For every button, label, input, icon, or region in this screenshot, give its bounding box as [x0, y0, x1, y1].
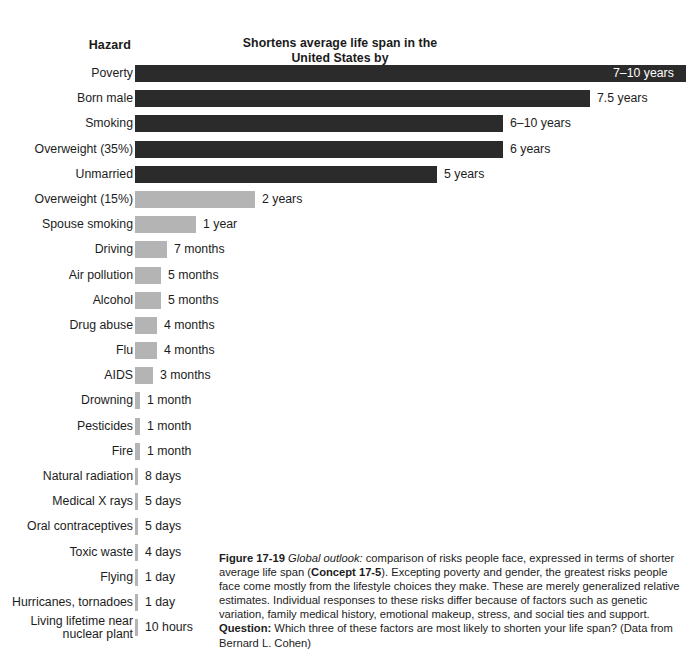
bar-row-label: Unmarried: [0, 168, 133, 181]
bar-container: [135, 292, 161, 309]
bar-container: [135, 65, 686, 82]
caption-italic-lead: Global outlook:: [288, 552, 363, 564]
bar-value-label: 7.5 years: [597, 91, 648, 105]
bar-row-label: Fire: [0, 445, 133, 458]
bar-container: [135, 241, 167, 258]
bar-container: [135, 216, 196, 233]
bar-row: Oral contraceptives5 days: [0, 515, 694, 540]
bar-container: [135, 594, 138, 611]
bar-value-label: 1 day: [145, 595, 175, 609]
bar: [135, 317, 157, 334]
bar-row: Drowning1 month: [0, 389, 694, 414]
bar-row-label: Living lifetime near nuclear plant: [0, 615, 133, 641]
bar-container: [135, 166, 437, 183]
bar-row: Spouse smoking1 year: [0, 213, 694, 238]
bar-value-label: 3 months: [160, 368, 211, 382]
bar-value-label: 7 months: [174, 242, 225, 256]
bar: [135, 141, 503, 158]
bar-row-label: Toxic waste: [0, 546, 133, 559]
bar: [135, 367, 153, 384]
bar-container: [135, 317, 157, 334]
bar-row-label: Hurricanes, tornadoes: [0, 596, 133, 609]
bar-container: [135, 619, 138, 636]
bar-container: [135, 418, 140, 435]
bar-row: Flu4 months: [0, 339, 694, 364]
bar-row-label: Flying: [0, 571, 133, 584]
bar-container: [135, 342, 157, 359]
bar-row-label: Medical X rays: [0, 495, 133, 508]
caption-bold-concept: Concept 17-5: [311, 566, 381, 578]
bar-row-label: Drowning: [0, 394, 133, 407]
bar-container: [135, 443, 140, 460]
bar-row-label: Drug abuse: [0, 319, 133, 332]
bar-row-label: Poverty: [0, 67, 133, 80]
bar-row-label: Overweight (15%): [0, 193, 133, 206]
bar-container: [135, 493, 138, 510]
bar-value-label: 1 year: [203, 217, 237, 231]
bar-row-label: Smoking: [0, 117, 133, 130]
hazard-column-header: Hazard: [0, 38, 131, 52]
bar: [135, 392, 140, 409]
bar: [135, 443, 140, 460]
bar: [135, 594, 138, 611]
bar-value-label: 5 months: [168, 268, 219, 282]
bar: [135, 518, 138, 535]
bar: [135, 418, 140, 435]
bar-value-label: 5 days: [145, 519, 181, 533]
bar: [135, 619, 138, 636]
bar: [135, 65, 686, 82]
bar-row: Pesticides1 month: [0, 415, 694, 440]
bar: [135, 468, 138, 485]
bar-value-label: 7–10 years: [613, 66, 674, 80]
bar-row: Fire1 month: [0, 440, 694, 465]
bar-row-label: Driving: [0, 243, 133, 256]
bar-row: Overweight (15%)2 years: [0, 188, 694, 213]
bar-value-label: 4 months: [164, 343, 215, 357]
bar-row-label: Born male: [0, 92, 133, 105]
bar-row: Smoking6–10 years: [0, 112, 694, 137]
bar: [135, 191, 255, 208]
bar-row-label: Oral contraceptives: [0, 520, 133, 533]
bar-value-label: 8 days: [145, 469, 181, 483]
bar-value-label: 6 years: [510, 142, 550, 156]
bar-row: Poverty7–10 years: [0, 62, 694, 87]
caption-text-3: Which three of these factors are most li…: [219, 622, 673, 648]
bar-row: Alcohol5 months: [0, 289, 694, 314]
bar-container: [135, 569, 138, 586]
bar-container: [135, 468, 138, 485]
bar-container: [135, 141, 503, 158]
bar-row: Drug abuse4 months: [0, 314, 694, 339]
bar-row-label: Air pollution: [0, 269, 133, 282]
bar-row: Born male7.5 years: [0, 87, 694, 112]
bar-row: Driving7 months: [0, 238, 694, 263]
caption-figure-number: Figure 17-19: [219, 552, 285, 564]
bar-value-label: 5 days: [145, 494, 181, 508]
bar: [135, 115, 503, 132]
bar-value-label: 1 month: [147, 419, 191, 433]
bar-container: [135, 115, 503, 132]
bar-value-label: 1 day: [145, 570, 175, 584]
bar-row: Overweight (35%)6 years: [0, 138, 694, 163]
bar-row-label: Alcohol: [0, 294, 133, 307]
bar-value-label: 4 days: [145, 545, 181, 559]
bar-row-label: Overweight (35%): [0, 143, 133, 156]
bar-container: [135, 90, 590, 107]
bar-value-label: 1 month: [147, 393, 191, 407]
caption-bold-question: Question:: [219, 622, 271, 634]
bar-row: Medical X rays5 days: [0, 490, 694, 515]
bar-row: Air pollution5 months: [0, 264, 694, 289]
bar: [135, 90, 590, 107]
bar-container: [135, 191, 255, 208]
bar-value-label: 6–10 years: [510, 116, 571, 130]
bar-container: [135, 544, 138, 561]
bar: [135, 342, 157, 359]
bar: [135, 292, 161, 309]
bar: [135, 267, 161, 284]
bar-row: Unmarried5 years: [0, 163, 694, 188]
bar-row: Natural radiation8 days: [0, 465, 694, 490]
bar-container: [135, 392, 140, 409]
bar-value-label: 1 month: [147, 444, 191, 458]
bar-value-label: 4 months: [164, 318, 215, 332]
bar-container: [135, 518, 138, 535]
bar-container: [135, 267, 161, 284]
